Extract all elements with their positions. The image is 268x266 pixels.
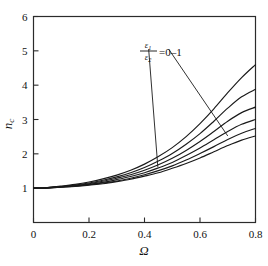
svg-text:nc: nc [0, 119, 16, 130]
line-chart: 123456 00.20.40.60.8 Ω nc ε1 ε2 =0–1 [0, 0, 268, 266]
x-axis-ticks [34, 218, 256, 223]
y-axis-label: nc [0, 119, 16, 130]
curve-series-5 [34, 136, 256, 188]
curve-series-3 [34, 120, 256, 189]
x-tick-label: 0.4 [138, 228, 152, 240]
y-tick-label: 5 [22, 45, 28, 57]
y-axis-label-subscript: c [6, 119, 16, 123]
x-tick-label: 0.6 [193, 228, 207, 240]
annotation-denominator-subscript: 2 [148, 56, 151, 63]
x-tick-label: 0.2 [82, 228, 96, 240]
y-tick-label: 4 [22, 79, 28, 91]
y-axis-tick-labels: 123456 [22, 11, 28, 195]
annotation-numerator-subscript: 1 [148, 44, 151, 51]
y-tick-label: 6 [22, 11, 28, 23]
data-curves [34, 65, 256, 189]
y-tick-label: 3 [22, 114, 28, 126]
y-axis-ticks [34, 17, 39, 189]
leader-line-0 [149, 49, 158, 167]
x-axis-label: Ω [139, 243, 148, 258]
curve-series-1 [34, 89, 256, 188]
x-axis-tick-labels: 00.20.40.60.8 [31, 228, 263, 240]
curve-series-0 [34, 65, 256, 189]
x-tick-label: 0 [31, 228, 37, 240]
y-tick-label: 1 [22, 182, 28, 194]
y-tick-label: 2 [22, 148, 28, 160]
curve-series-4 [34, 128, 256, 188]
x-tick-label: 0.8 [249, 228, 263, 240]
figure-container: 123456 00.20.40.60.8 Ω nc ε1 ε2 =0–1 [0, 0, 268, 266]
annotation-equals-range: =0–1 [159, 46, 182, 58]
leader-line-1 [169, 49, 228, 136]
annotation-numerator: ε1 [145, 40, 151, 51]
annotation-denominator: ε2 [145, 52, 151, 63]
